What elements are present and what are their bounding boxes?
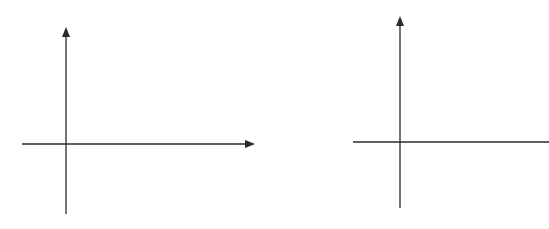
left-axes-group xyxy=(22,27,255,214)
diagram-canvas xyxy=(0,0,549,229)
right-axes-group xyxy=(353,16,549,208)
left-y-axis-arrow-icon xyxy=(62,27,70,37)
left-x-axis-arrow-icon xyxy=(245,140,255,148)
right-y-axis-arrow-icon xyxy=(396,16,404,26)
